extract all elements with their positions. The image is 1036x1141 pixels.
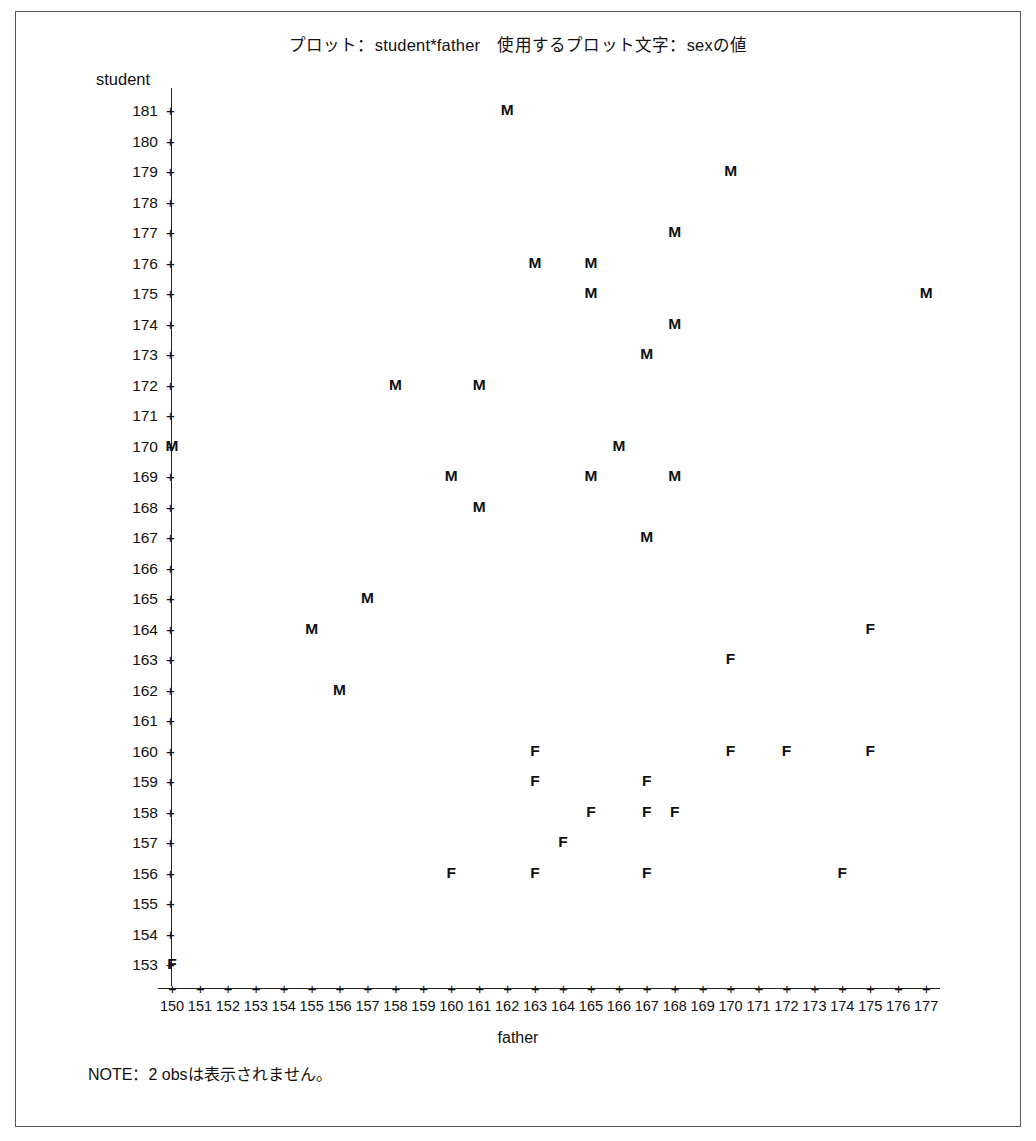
data-point-F: F — [863, 743, 877, 759]
y-axis-tick-mark: + — [166, 591, 175, 606]
data-point-F: F — [165, 956, 179, 972]
y-axis-tick-mark: + — [166, 683, 175, 698]
x-axis-tick-mark: + — [838, 981, 847, 996]
y-axis-tick-mark: + — [166, 195, 175, 210]
x-axis-tick-mark: + — [643, 981, 652, 996]
y-axis-tick-label: 167 — [112, 529, 158, 547]
x-axis-tick-mark: + — [671, 981, 680, 996]
data-point-M: M — [668, 316, 682, 332]
data-point-M: M — [640, 346, 654, 362]
y-axis-tick-mark: + — [166, 805, 175, 820]
y-axis-tick-mark: + — [166, 927, 175, 942]
data-point-M: M — [165, 438, 179, 454]
y-axis-tick-mark: + — [166, 835, 175, 850]
y-axis-tick-label: 155 — [112, 895, 158, 913]
y-axis-tick-mark: + — [166, 713, 175, 728]
note-text: NOTE：2 obsは表示されません。 — [88, 1061, 332, 1085]
x-axis-tick-mark: + — [531, 981, 540, 996]
y-axis-tick-label: 154 — [112, 926, 158, 944]
data-point-M: M — [305, 621, 319, 637]
y-axis-tick-label: 160 — [112, 743, 158, 761]
y-axis-tick-label: 172 — [112, 377, 158, 395]
x-axis-tick-mark: + — [196, 981, 205, 996]
data-point-F: F — [640, 865, 654, 881]
data-point-M: M — [668, 224, 682, 240]
y-axis-tick-mark: + — [166, 378, 175, 393]
y-axis-tick-mark: + — [166, 896, 175, 911]
y-axis-tick-label: 176 — [112, 255, 158, 273]
y-axis-tick-label: 180 — [112, 133, 158, 151]
y-axis-tick-mark: + — [166, 744, 175, 759]
x-axis-line — [158, 988, 940, 989]
y-axis-tick-label: 157 — [112, 834, 158, 852]
data-point-F: F — [724, 651, 738, 667]
y-axis-tick-mark: + — [166, 103, 175, 118]
y-axis-tick-label: 179 — [112, 163, 158, 181]
y-axis-tick-label: 165 — [112, 590, 158, 608]
data-point-F: F — [779, 743, 793, 759]
x-axis-tick-mark: + — [280, 981, 289, 996]
y-axis-tick-label: 168 — [112, 499, 158, 517]
x-axis-tick-mark: + — [168, 981, 177, 996]
data-point-M: M — [500, 102, 514, 118]
data-point-F: F — [640, 804, 654, 820]
data-point-M: M — [361, 590, 375, 606]
x-axis-tick-mark: + — [810, 981, 819, 996]
y-axis-tick-mark: + — [166, 500, 175, 515]
data-point-M: M — [584, 255, 598, 271]
y-axis-tick-mark: + — [166, 561, 175, 576]
y-axis-tick-label: 178 — [112, 194, 158, 212]
x-axis-tick-mark: + — [866, 981, 875, 996]
y-axis-title: student — [96, 70, 150, 89]
x-axis-tick-mark: + — [475, 981, 484, 996]
x-axis-tick-mark: + — [615, 981, 624, 996]
data-point-F: F — [724, 743, 738, 759]
x-axis-tick-mark: + — [447, 981, 456, 996]
x-axis-tick-mark: + — [364, 981, 373, 996]
x-axis-tick-mark: + — [419, 981, 428, 996]
x-axis-tick-mark: + — [308, 981, 317, 996]
y-axis-tick-mark: + — [166, 347, 175, 362]
x-axis-tick-mark: + — [782, 981, 791, 996]
x-axis-tick-mark: + — [922, 981, 931, 996]
x-axis-tick-mark: + — [727, 981, 736, 996]
y-axis-tick-mark: + — [166, 622, 175, 637]
y-axis-tick-label: 159 — [112, 773, 158, 791]
y-axis-tick-mark: + — [166, 530, 175, 545]
data-point-F: F — [556, 834, 570, 850]
y-axis-tick-mark: + — [166, 408, 175, 423]
x-axis-title: father — [0, 1029, 1036, 1047]
data-point-F: F — [528, 743, 542, 759]
y-axis-tick-mark: + — [166, 774, 175, 789]
x-axis-tick-mark: + — [252, 981, 261, 996]
y-axis-tick-mark: + — [166, 652, 175, 667]
x-axis-tick-mark: + — [503, 981, 512, 996]
y-axis-tick-label: 156 — [112, 865, 158, 883]
y-axis-tick-label: 169 — [112, 468, 158, 486]
x-axis-tick-mark: + — [224, 981, 233, 996]
data-point-F: F — [528, 773, 542, 789]
data-point-F: F — [835, 865, 849, 881]
y-axis-tick-label: 173 — [112, 346, 158, 364]
x-axis-tick-mark: + — [391, 981, 400, 996]
data-point-M: M — [444, 468, 458, 484]
data-point-F: F — [444, 865, 458, 881]
x-axis-tick-mark: + — [336, 981, 345, 996]
y-axis-tick-label: 163 — [112, 651, 158, 669]
y-axis-tick-label: 166 — [112, 560, 158, 578]
y-axis-tick-mark: + — [166, 256, 175, 271]
data-point-M: M — [584, 468, 598, 484]
y-axis-tick-label: 162 — [112, 682, 158, 700]
x-axis-tick-mark: + — [699, 981, 708, 996]
y-axis-tick-label: 181 — [112, 102, 158, 120]
data-point-M: M — [388, 377, 402, 393]
data-point-F: F — [640, 773, 654, 789]
x-axis-tick-mark: + — [587, 981, 596, 996]
data-point-M: M — [472, 499, 486, 515]
x-axis-tick-label: 177 — [909, 998, 943, 1014]
x-axis-tick-mark: + — [559, 981, 568, 996]
data-point-M: M — [919, 285, 933, 301]
data-point-F: F — [528, 865, 542, 881]
y-axis-tick-label: 175 — [112, 285, 158, 303]
y-axis-tick-mark: + — [166, 866, 175, 881]
